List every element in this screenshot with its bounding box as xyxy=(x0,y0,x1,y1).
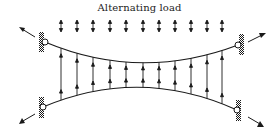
pin-icon xyxy=(40,104,46,110)
structure-diagram xyxy=(0,0,279,133)
support-bottom-left xyxy=(19,97,46,124)
support-bottom-right xyxy=(234,100,264,127)
reaction-arrow-icon xyxy=(23,114,35,121)
reaction-arrow-icon xyxy=(248,117,260,124)
reaction-arrow-icon xyxy=(248,35,262,42)
support-top-left xyxy=(19,27,48,52)
support-top-right xyxy=(235,33,266,55)
top-chord xyxy=(45,42,238,63)
pin-icon xyxy=(235,42,241,48)
pin-icon xyxy=(234,107,240,113)
pin-icon xyxy=(42,39,48,45)
reaction-arrow-icon xyxy=(22,29,35,37)
alternating-load-arrows xyxy=(59,20,223,32)
